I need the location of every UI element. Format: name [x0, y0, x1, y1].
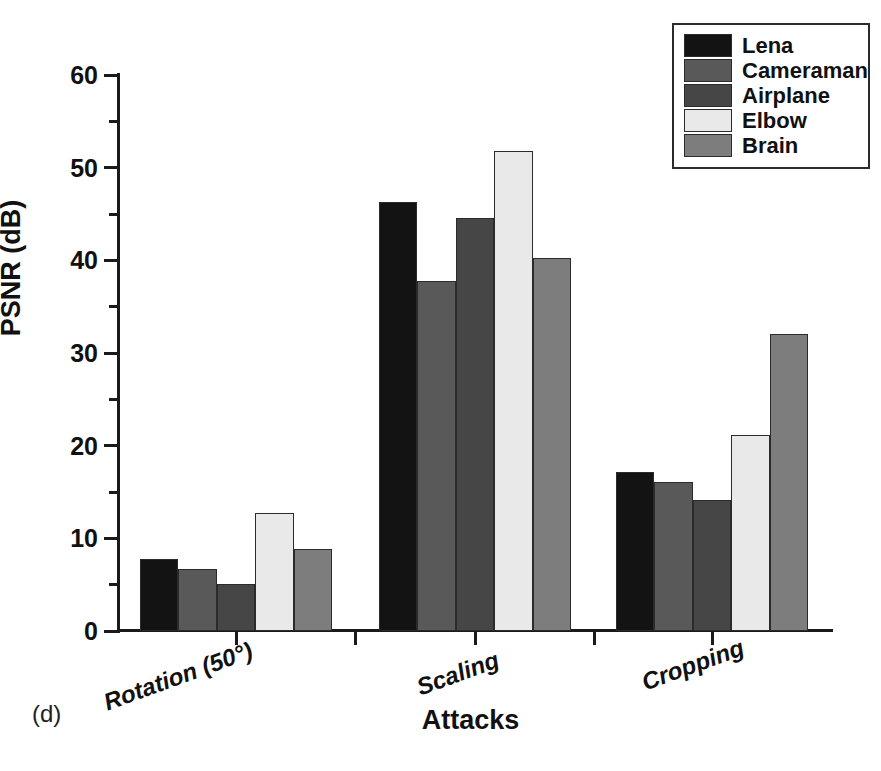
- y-tick-label: 30: [70, 339, 98, 368]
- y-tick-major: [104, 352, 117, 355]
- legend-label: Cameraman: [742, 58, 868, 84]
- y-tick-label: 20: [70, 431, 98, 460]
- x-axis-title-text: Attacks: [422, 705, 520, 736]
- legend-item: Airplane: [684, 83, 858, 108]
- y-tick-label: 50: [70, 153, 98, 182]
- y-tick-minor: [109, 398, 117, 401]
- y-tick-major: [104, 537, 117, 540]
- y-tick-label: 40: [70, 246, 98, 275]
- bar: [255, 513, 293, 631]
- bar: [379, 202, 417, 631]
- bar: [616, 472, 654, 631]
- y-tick-minor: [109, 305, 117, 308]
- bar: [731, 435, 769, 631]
- bar: [456, 218, 494, 631]
- x-tick: [593, 631, 596, 645]
- y-tick-minor: [109, 120, 117, 123]
- x-category-label: Scaling: [413, 646, 503, 702]
- y-tick-label: 60: [70, 61, 98, 90]
- bar: [693, 500, 731, 631]
- panel-label: (d): [32, 700, 61, 728]
- legend-label: Lena: [742, 33, 793, 59]
- bar: [417, 281, 455, 631]
- x-tick: [354, 631, 357, 645]
- y-tick-major: [104, 74, 117, 77]
- bar: [654, 482, 692, 631]
- legend-label: Brain: [742, 133, 798, 159]
- x-axis-title: Attacks: [0, 705, 881, 736]
- y-tick-minor: [109, 491, 117, 494]
- legend-label: Airplane: [742, 83, 830, 109]
- legend-item: Cameraman: [684, 58, 858, 83]
- y-axis-title: PSNR (dB): [0, 200, 27, 337]
- legend-swatch: [684, 109, 732, 132]
- legend-item: Elbow: [684, 108, 858, 133]
- y-tick-major: [104, 259, 117, 262]
- legend-item: Brain: [684, 133, 858, 158]
- bar: [770, 334, 808, 631]
- legend-swatch: [684, 34, 732, 57]
- y-tick-major: [104, 166, 117, 169]
- y-tick-major: [104, 630, 117, 633]
- bar: [533, 258, 571, 631]
- x-category-label: Cropping: [638, 634, 748, 697]
- legend-label: Elbow: [742, 108, 807, 134]
- legend-item: Lena: [684, 33, 858, 58]
- x-tick: [474, 631, 477, 645]
- bar: [494, 151, 532, 631]
- legend: LenaCameramanAirplaneElbowBrain: [672, 23, 870, 169]
- legend-swatch: [684, 59, 732, 82]
- y-tick-label: 0: [84, 617, 98, 646]
- figure-panel-d: PSNR (dB) Attacks (d) 0102030405060 Rota…: [0, 0, 881, 771]
- bar: [178, 569, 216, 631]
- legend-swatch: [684, 84, 732, 107]
- y-tick-major: [104, 444, 117, 447]
- y-tick-minor: [109, 213, 117, 216]
- y-tick-minor: [109, 583, 117, 586]
- bar: [140, 559, 178, 631]
- bar: [217, 584, 255, 631]
- y-tick-label: 10: [70, 524, 98, 553]
- legend-swatch: [684, 134, 732, 157]
- bar: [294, 549, 332, 631]
